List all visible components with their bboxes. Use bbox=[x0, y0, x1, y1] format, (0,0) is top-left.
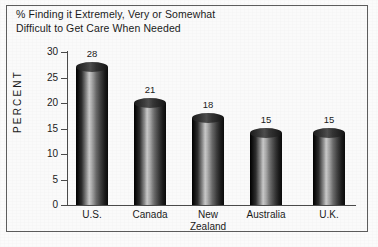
y-tick-15 bbox=[61, 129, 67, 130]
bar-australia-body bbox=[250, 133, 282, 205]
y-tick-label-20: 20 bbox=[18, 97, 58, 108]
y-tick-label-wrap-30: 30 bbox=[15, 52, 58, 53]
y-tick-25 bbox=[61, 78, 67, 79]
bar-us-value: 28 bbox=[72, 48, 112, 59]
bar-canada-top bbox=[134, 98, 166, 108]
x-tick-label-uk-line-1: U.K. bbox=[319, 209, 338, 220]
bar-uk-body bbox=[313, 133, 345, 205]
y-tick-label-wrap-0: 0 bbox=[15, 205, 58, 206]
y-tick-label-30: 30 bbox=[18, 46, 58, 57]
bar-us bbox=[76, 62, 108, 205]
bar-australia-top bbox=[250, 128, 282, 138]
y-tick-label-wrap-10: 10 bbox=[15, 154, 58, 155]
bar-canada-body bbox=[134, 103, 166, 205]
y-tick-5 bbox=[61, 180, 67, 181]
x-tick-label-us-line-1: U.S. bbox=[82, 209, 101, 220]
y-tick-30 bbox=[61, 52, 67, 53]
x-tick-label-australia-line-1: Australia bbox=[247, 209, 286, 220]
y-tick-20 bbox=[61, 103, 67, 104]
y-tick-label-10: 10 bbox=[18, 148, 58, 159]
x-tick-label-uk: U.K. bbox=[289, 209, 369, 221]
bar-new-zealand bbox=[192, 113, 224, 205]
bar-canada-value: 21 bbox=[130, 84, 170, 95]
x-tick-label-new-zealand-line-1: New bbox=[198, 209, 218, 220]
bar-australia bbox=[250, 128, 282, 205]
bar-us-top bbox=[76, 62, 108, 72]
bar-us-body bbox=[76, 67, 108, 205]
bar-new-zealand-value: 18 bbox=[188, 99, 228, 110]
y-axis-title: PERCENT bbox=[12, 67, 23, 137]
y-tick-label-wrap-5: 5 bbox=[15, 180, 58, 181]
chart-figure: % Finding it Extremely, Very or Somewhat… bbox=[0, 0, 378, 247]
x-tick-label-canada-line-1: Canada bbox=[132, 209, 167, 220]
bar-new-zealand-top bbox=[192, 113, 224, 123]
bar-uk-value: 15 bbox=[309, 114, 349, 125]
y-axis-line bbox=[67, 51, 68, 206]
y-tick-label-5: 5 bbox=[18, 174, 58, 185]
y-tick-label-15: 15 bbox=[18, 123, 58, 134]
x-tick-label-new-zealand-line-2: Zealand bbox=[190, 221, 226, 232]
plot-area: 0 5 10 15 20 25 30 PERCENT 28 21 bbox=[0, 0, 378, 247]
bar-canada bbox=[134, 98, 166, 205]
y-tick-10 bbox=[61, 154, 67, 155]
y-tick-label-25: 25 bbox=[18, 72, 58, 83]
bar-new-zealand-body bbox=[192, 118, 224, 205]
x-axis-line bbox=[67, 205, 356, 206]
bar-uk bbox=[313, 128, 345, 205]
bar-australia-value: 15 bbox=[246, 114, 286, 125]
bar-uk-top bbox=[313, 128, 345, 138]
y-tick-0 bbox=[61, 205, 67, 206]
